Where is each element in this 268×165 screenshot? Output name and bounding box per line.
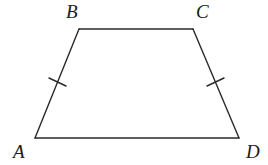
side-ab <box>35 29 79 138</box>
trapezoid-figure <box>0 0 268 165</box>
vertex-label-d: D <box>246 142 260 161</box>
tick-mark-cd <box>207 78 224 86</box>
vertex-label-b: B <box>66 2 78 21</box>
side-cd <box>193 29 239 138</box>
vertex-label-c: C <box>196 2 209 21</box>
vertex-label-a: A <box>13 142 25 161</box>
tick-mark-ab <box>49 78 66 86</box>
trapezoid-diagram: A B C D <box>0 0 268 165</box>
